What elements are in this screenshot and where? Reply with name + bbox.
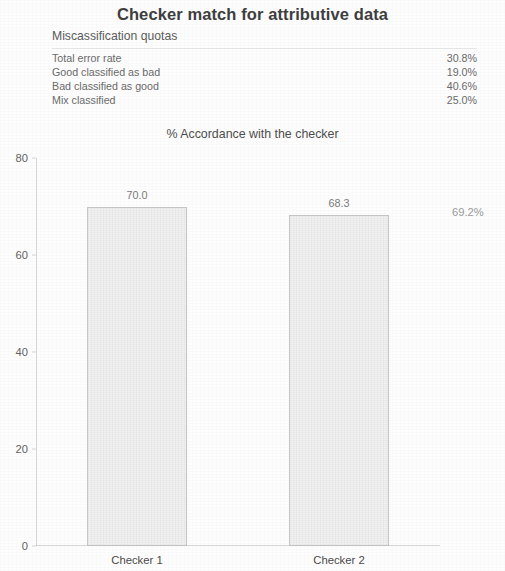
quota-label: Total error rate [52,52,122,64]
table-row: Bad classified as good40.6% [52,80,477,94]
y-axis-tick-label: 0 [2,540,28,552]
y-axis-tick-mark [32,546,36,547]
quota-value: 25.0% [447,94,477,106]
y-axis-tick-label: 80 [2,152,28,164]
quota-value: 40.6% [447,80,477,92]
table-top-rule [52,48,477,49]
report-page: Checker match for attributive data Misca… [0,0,505,571]
quota-value: 30.8% [447,52,477,64]
table-row: Good classified as bad19.0% [52,66,477,80]
x-axis-category-label: Checker 2 [313,554,365,566]
y-axis-line [36,158,37,546]
y-axis-tick-mark [32,255,36,256]
miscassification-quota-table: Total error rate30.8%Good classified as … [52,52,477,108]
bar-chart-plot-area: 02040608070.0Checker 168.3Checker 2 [36,158,440,546]
y-axis-tick-mark [32,352,36,353]
y-axis-tick-mark [32,449,36,450]
bar-value-label: 70.0 [126,189,147,201]
quota-value: 19.0% [447,66,477,78]
table-row: Total error rate30.8% [52,52,477,66]
y-axis-tick-label: 20 [2,443,28,455]
quota-label: Bad classified as good [52,80,159,92]
report-subtitle: Miscassification quotas [52,29,177,43]
y-axis-tick-label: 40 [2,346,28,358]
y-axis-tick-label: 60 [2,249,28,261]
quota-label: Good classified as bad [52,66,160,78]
bar-value-label: 68.3 [328,197,349,209]
overall-accordance-annotation: 69.2% [452,206,484,218]
x-axis-category-label: Checker 1 [111,554,163,566]
bar [289,215,389,546]
y-axis-tick-mark [32,158,36,159]
page-title: Checker match for attributive data [0,5,505,24]
chart-caption: % Accordance with the checker [0,127,505,141]
table-row: Mix classified25.0% [52,94,477,108]
quota-label: Mix classified [52,94,116,106]
bar [87,207,187,547]
